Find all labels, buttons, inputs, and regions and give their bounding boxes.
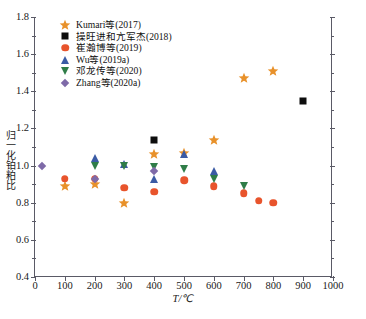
legend-item[interactable]: Zhang等(2020a) bbox=[58, 77, 198, 89]
star-icon bbox=[58, 19, 72, 30]
data-point bbox=[300, 97, 307, 104]
legend-item[interactable]: 操旺进和亢军杰(2018) bbox=[58, 31, 198, 43]
y-tick-minor bbox=[32, 184, 36, 185]
square-icon bbox=[58, 31, 72, 42]
x-axis-title: T/℃ bbox=[173, 292, 194, 304]
y-tick-right bbox=[330, 17, 335, 18]
legend-item-label: Kumari等(2017) bbox=[72, 20, 141, 30]
x-tick-label: 700 bbox=[236, 281, 252, 292]
data-point bbox=[240, 182, 248, 190]
data-point bbox=[255, 197, 263, 205]
y-tick-right bbox=[330, 203, 335, 204]
x-tick-label: 400 bbox=[146, 281, 162, 292]
data-point bbox=[120, 162, 128, 170]
data-point bbox=[180, 177, 188, 185]
data-point bbox=[270, 199, 278, 207]
scatter-chart: 归一化铂粕比 T/℃ 0.40.60.81.01.21.41.61.8 0100… bbox=[0, 0, 366, 319]
y-tick-minor bbox=[32, 73, 36, 74]
diamond-icon bbox=[58, 77, 72, 88]
data-point bbox=[91, 162, 99, 170]
triangle-up-icon bbox=[58, 54, 72, 65]
y-tick bbox=[31, 54, 36, 55]
data-point bbox=[210, 175, 218, 183]
y-tick bbox=[31, 240, 36, 241]
y-tick-label: 1.6 bbox=[16, 49, 29, 60]
y-axis-title: 归一化铂粕比 bbox=[4, 130, 14, 190]
y-tick-minor bbox=[32, 258, 36, 259]
x-tick-label: 300 bbox=[117, 281, 133, 292]
circle-icon bbox=[58, 42, 72, 53]
y-tick-right bbox=[330, 166, 335, 167]
data-point bbox=[240, 190, 248, 198]
data-point bbox=[150, 188, 158, 196]
data-point bbox=[210, 182, 218, 190]
legend-item-label: Wu等(2019a) bbox=[72, 55, 129, 65]
y-tick-label: 0.4 bbox=[16, 272, 29, 283]
y-tick-minor-right bbox=[331, 184, 335, 185]
y-tick-minor-right bbox=[331, 147, 335, 148]
x-tick-label: 1000 bbox=[323, 281, 344, 292]
legend-item[interactable]: Wu等(2019a) bbox=[58, 54, 198, 66]
y-tick-label: 1.8 bbox=[16, 12, 29, 23]
x-tick-label: 0 bbox=[32, 281, 37, 292]
y-tick-minor-right bbox=[331, 73, 335, 74]
y-tick-right bbox=[330, 128, 335, 129]
data-point bbox=[180, 150, 188, 158]
y-tick-label: 0.6 bbox=[16, 235, 29, 246]
y-tick-minor-right bbox=[331, 36, 335, 37]
x-tick-label: 200 bbox=[87, 281, 103, 292]
legend-item[interactable]: 邓龙传等(2020) bbox=[58, 65, 198, 77]
y-tick-label: 1.0 bbox=[16, 160, 29, 171]
y-tick bbox=[31, 166, 36, 167]
legend-item-label: 崔瀚博等(2019) bbox=[72, 43, 142, 53]
legend-item[interactable]: 崔瀚博等(2019) bbox=[58, 42, 198, 54]
data-point bbox=[38, 161, 46, 169]
x-tick-label: 500 bbox=[176, 281, 192, 292]
triangle-down-icon bbox=[58, 66, 72, 77]
y-tick-label: 1.2 bbox=[16, 123, 29, 134]
legend-item-label: 操旺进和亢军杰(2018) bbox=[72, 32, 172, 42]
y-tick-right bbox=[330, 54, 335, 55]
y-tick-label: 1.4 bbox=[16, 86, 29, 97]
y-tick bbox=[31, 203, 36, 204]
data-point bbox=[150, 175, 158, 183]
data-point bbox=[180, 165, 188, 173]
x-tick-label: 600 bbox=[206, 281, 222, 292]
y-tick-minor bbox=[32, 110, 36, 111]
y-tick-minor bbox=[32, 36, 36, 37]
y-tick-label: 0.8 bbox=[16, 197, 29, 208]
y-tick bbox=[31, 17, 36, 18]
y-tick-minor-right bbox=[331, 110, 335, 111]
y-tick-minor-right bbox=[331, 221, 335, 222]
y-tick bbox=[31, 128, 36, 129]
legend-item-label: 邓龙传等(2020) bbox=[72, 66, 142, 76]
y-tick-right bbox=[330, 240, 335, 241]
y-tick bbox=[31, 91, 36, 92]
legend-item[interactable]: Kumari等(2017) bbox=[58, 19, 198, 31]
chart-legend: Kumari等(2017)操旺进和亢军杰(2018)崔瀚博等(2019)Wu等(… bbox=[58, 19, 198, 89]
data-point bbox=[121, 184, 129, 192]
x-tick-label: 800 bbox=[266, 281, 282, 292]
y-tick-minor bbox=[32, 221, 36, 222]
data-point bbox=[61, 175, 69, 183]
x-tick-label: 100 bbox=[57, 281, 73, 292]
legend-item-label: Zhang等(2020a) bbox=[72, 78, 140, 88]
x-tick-label: 900 bbox=[295, 281, 311, 292]
y-tick-minor-right bbox=[331, 258, 335, 259]
data-point bbox=[151, 136, 158, 143]
y-tick-minor bbox=[32, 147, 36, 148]
y-tick-right bbox=[330, 91, 335, 92]
